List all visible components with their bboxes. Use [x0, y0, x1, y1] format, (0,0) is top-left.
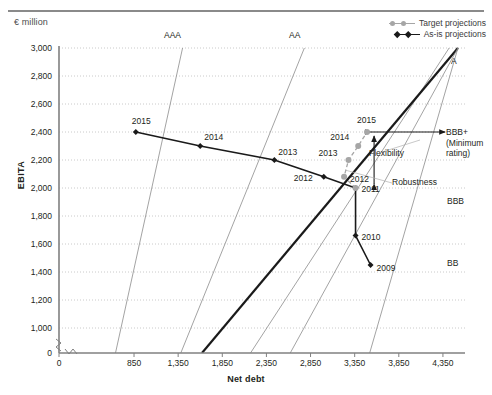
rating-label-aa: AA [289, 30, 300, 40]
data-point-label-target-2012: 2012 [350, 174, 369, 184]
data-point-label-target-2014: 2014 [330, 132, 349, 142]
rating-label-bb: BB [447, 258, 458, 268]
data-point-label-as-is-2013: 2013 [278, 147, 297, 157]
rating-label-bbb: BBB [447, 196, 464, 206]
data-point-label-target-2015: 2015 [357, 115, 376, 125]
rating-label-bbb-plus: BBB+ [446, 127, 468, 137]
data-point-label-target-2013: 2013 [318, 148, 337, 158]
plot-area [0, 0, 492, 395]
data-point-label-as-is-2014: 2014 [204, 132, 223, 142]
data-point-label-as-is-2010: 2010 [362, 232, 381, 242]
data-point-label-as-is-2009: 2009 [377, 263, 396, 273]
rating-label-bbb-plus-sub: (Minimum rating) [446, 138, 492, 158]
data-point-label-as-is-2012: 2012 [294, 173, 313, 183]
annotation-label-flexibility: Flexibility [369, 148, 404, 158]
data-point-label-as-is-2011: 2011 [362, 184, 380, 194]
rating-label-aaa: AAA [164, 30, 181, 40]
annotation-label-robustness: Robustness [392, 177, 437, 187]
data-point-label-as-is-2015: 2015 [132, 116, 151, 126]
rating-label-a: A [451, 56, 457, 66]
chart-container: € million Target projections As-is proje… [0, 0, 492, 395]
